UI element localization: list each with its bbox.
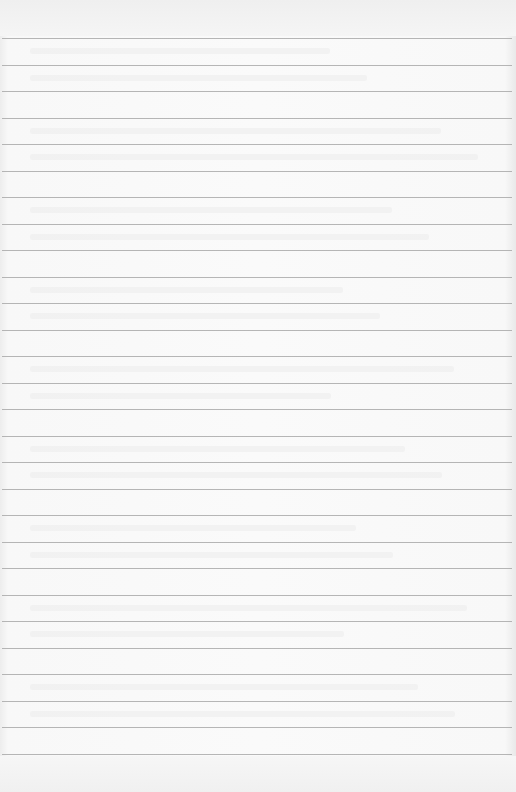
ruled-line [2,277,512,278]
ruled-line [2,409,512,410]
ruled-line [2,144,512,145]
show-through-smudge [30,154,478,160]
show-through-smudge [30,446,405,452]
ruled-line [2,118,512,119]
ruled-line [2,568,512,569]
show-through-smudge [30,552,393,558]
top-margin [0,0,516,36]
ruled-line [2,595,512,596]
show-through-smudge [30,605,467,611]
show-through-smudge [30,631,344,637]
ruled-line [2,91,512,92]
ruled-line [2,171,512,172]
ruled-line [2,542,512,543]
show-through-smudge [30,75,367,81]
ruled-line [2,65,512,66]
show-through-smudge [30,48,330,54]
ruled-line [2,250,512,251]
ruled-line [2,197,512,198]
show-through-smudge [30,234,429,240]
show-through-smudge [30,393,331,399]
notebook-page [0,0,516,792]
ruled-line [2,303,512,304]
ruled-line [2,330,512,331]
show-through-smudge [30,287,343,293]
show-through-smudge [30,313,380,319]
ruled-line [2,674,512,675]
ruled-line [2,621,512,622]
show-through-smudge [30,525,356,531]
ruled-line [2,648,512,649]
show-through-smudge [30,128,441,134]
show-through-smudge [30,207,392,213]
ruled-line [2,727,512,728]
ruled-line [2,515,512,516]
show-through-smudge [30,684,418,690]
ruled-line [2,224,512,225]
ruled-line [2,38,512,39]
ruled-line [2,701,512,702]
show-through-smudge [30,711,455,717]
ruled-line [2,489,512,490]
show-through-smudge [30,472,442,478]
ruled-line [2,754,512,755]
bottom-margin [0,756,516,792]
ruled-line [2,383,512,384]
ruled-line [2,436,512,437]
show-through-smudge [30,366,454,372]
ruled-line [2,462,512,463]
ruled-line [2,356,512,357]
